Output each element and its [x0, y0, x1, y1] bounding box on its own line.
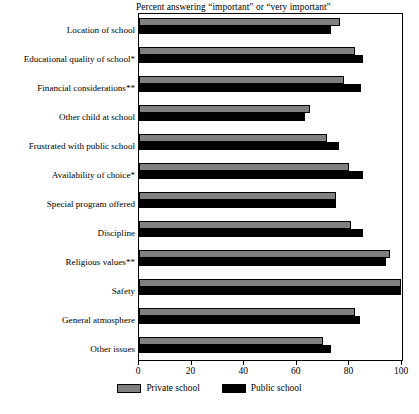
category-label: Frustrated with public school — [29, 140, 135, 151]
bar-public — [139, 229, 363, 237]
chart-category-row: Other issues — [139, 334, 402, 363]
bar-public — [139, 113, 305, 121]
bar-private — [139, 134, 327, 142]
bar-public — [139, 345, 331, 353]
legend-item-public: Public school — [222, 383, 302, 394]
bar-public — [139, 142, 339, 150]
bar-private — [139, 76, 344, 84]
bar-public — [139, 55, 363, 63]
x-axis-tick — [191, 361, 192, 365]
chart-category-row: Safety — [139, 276, 402, 305]
x-axis-tick — [243, 361, 244, 365]
bar-public — [139, 287, 401, 295]
category-label: Religious values** — [66, 256, 135, 267]
x-axis-tick-label: 40 — [238, 366, 248, 377]
x-axis-tick-label: 100 — [394, 366, 408, 377]
category-label: Safety — [112, 285, 135, 296]
plot-area: Location of schoolEducational quality of… — [138, 13, 403, 361]
chart-category-row: Availability of choice* — [139, 160, 402, 189]
x-axis-tick — [138, 361, 139, 365]
chart-category-row: Religious values** — [139, 247, 402, 276]
bar-chart: Percent answering “important” or “very i… — [0, 0, 419, 414]
legend-label: Private school — [146, 383, 199, 394]
chart-category-row: Other child at school — [139, 102, 402, 131]
legend-swatch-private-icon — [117, 384, 141, 393]
legend-item-private: Private school — [117, 383, 199, 394]
category-label: Other child at school — [59, 111, 135, 122]
bar-private — [139, 221, 351, 229]
x-axis-tick — [296, 361, 297, 365]
bar-public — [139, 200, 336, 208]
chart-category-row: Financial considerations** — [139, 73, 402, 102]
chart-category-row: Educational quality of school* — [139, 44, 402, 73]
bar-private — [139, 279, 401, 287]
chart-category-row: General atmosphere — [139, 305, 402, 334]
legend-label: Public school — [251, 383, 302, 394]
chart-category-row: Discipline — [139, 218, 402, 247]
category-label: Financial considerations** — [37, 82, 135, 93]
category-label: Location of school — [67, 24, 135, 35]
chart-title: Percent answering “important” or “very i… — [136, 1, 331, 13]
x-axis-tick-label: 20 — [186, 366, 196, 377]
bar-public — [139, 171, 363, 179]
x-axis-tick-label: 80 — [344, 366, 354, 377]
chart-category-row: Location of school — [139, 15, 402, 44]
bar-public — [139, 316, 360, 324]
bar-private — [139, 192, 336, 200]
x-axis-tick-label: 60 — [291, 366, 301, 377]
bar-private — [139, 250, 390, 258]
bar-private — [139, 337, 323, 345]
bar-public — [139, 26, 331, 34]
bar-private — [139, 47, 355, 55]
chart-category-row: Special program offered — [139, 189, 402, 218]
x-axis-tick — [348, 361, 349, 365]
category-label: Discipline — [98, 227, 135, 238]
category-label: General atmosphere — [62, 314, 135, 325]
legend-swatch-public-icon — [222, 384, 246, 393]
chart-category-row: Frustrated with public school — [139, 131, 402, 160]
bar-private — [139, 18, 340, 26]
category-label: Other issues — [90, 343, 135, 354]
bar-public — [139, 258, 386, 266]
x-axis-tick — [401, 361, 402, 365]
x-axis: 020406080100 — [138, 361, 403, 381]
category-label: Educational quality of school* — [24, 53, 135, 64]
chart-legend: Private schoolPublic school — [0, 383, 419, 394]
category-label: Availability of choice* — [52, 169, 135, 180]
category-label: Special program offered — [47, 198, 135, 209]
bar-private — [139, 105, 310, 113]
bar-private — [139, 308, 355, 316]
bar-public — [139, 84, 361, 92]
x-axis-tick-label: 0 — [136, 366, 141, 377]
bar-private — [139, 163, 349, 171]
